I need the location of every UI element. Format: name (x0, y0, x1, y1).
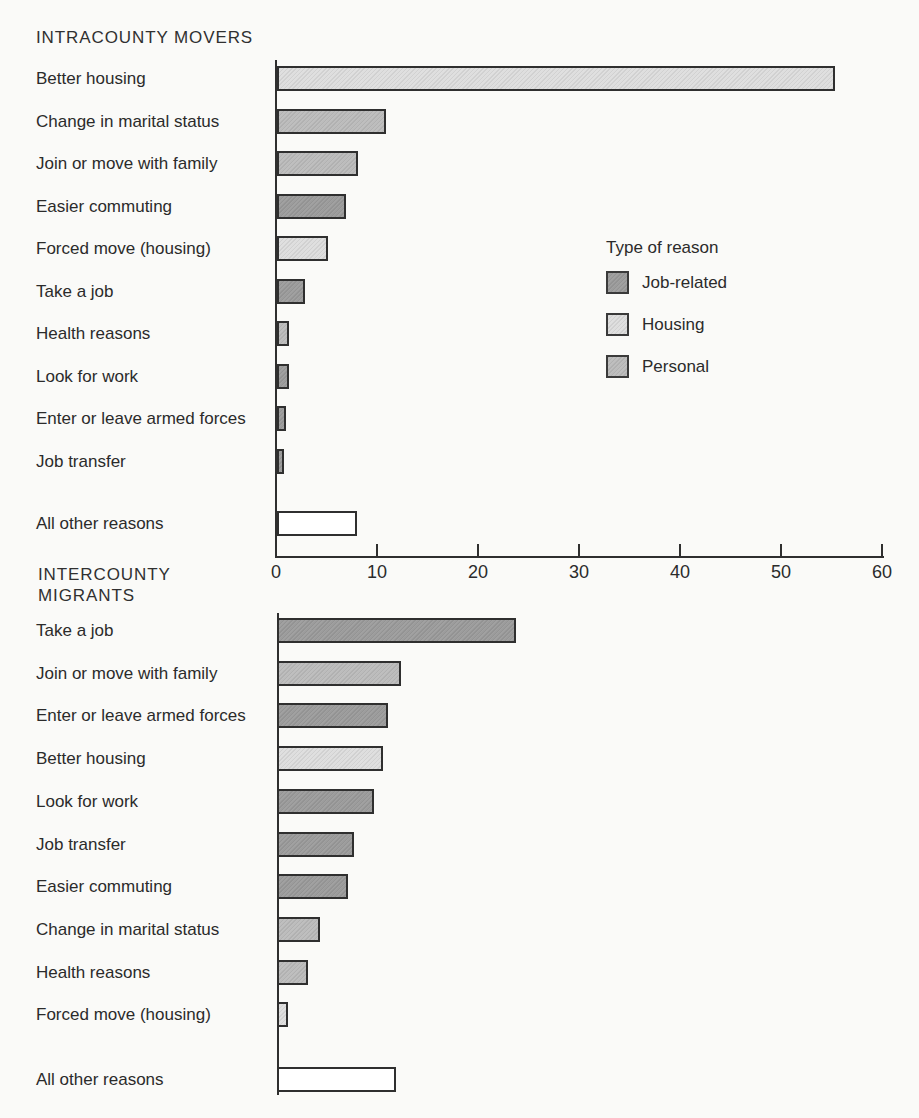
category-label: Easier commuting (36, 877, 172, 897)
category-label: Join or move with family (36, 154, 217, 174)
job-related-swatch (606, 271, 629, 294)
bar (277, 321, 289, 346)
legend-title: Type of reason (606, 238, 727, 258)
legend-item: Job-related (606, 271, 727, 294)
axis-tick-label: 60 (864, 562, 900, 583)
bar (277, 406, 286, 431)
bar (277, 1067, 396, 1092)
bar (277, 66, 835, 91)
axis-tick (578, 544, 580, 558)
category-label: Look for work (36, 792, 138, 812)
bar (277, 449, 284, 474)
axis-tick-label: 50 (763, 562, 799, 583)
category-label: All other reasons (36, 514, 164, 534)
bar (277, 194, 346, 219)
bar (277, 109, 386, 134)
category-label: Change in marital status (36, 112, 219, 132)
category-label: Enter or leave armed forces (36, 706, 246, 726)
bar (277, 960, 308, 985)
category-label: Join or move with family (36, 664, 217, 684)
category-label: Better housing (36, 749, 146, 769)
category-label: Better housing (36, 69, 146, 89)
axis-tick (881, 544, 883, 558)
axis-tick (477, 544, 479, 558)
axis-tick (679, 544, 681, 558)
bar (277, 917, 320, 942)
legend-items: Job-relatedHousingPersonal (606, 271, 727, 378)
axis-tick-label: 10 (359, 562, 395, 583)
bar (277, 874, 348, 899)
axis-tick-label: 20 (460, 562, 496, 583)
bar (277, 703, 388, 728)
legend-item: Personal (606, 355, 727, 378)
intercounty-migrants-title: INTERCOUNTY MIGRANTS (38, 564, 171, 606)
bar (277, 789, 374, 814)
category-label: Take a job (36, 621, 114, 641)
category-label: Easier commuting (36, 197, 172, 217)
bar (277, 511, 357, 536)
intracounty-baseline (275, 60, 277, 558)
housing-swatch (606, 313, 629, 336)
bar (277, 151, 358, 176)
category-label: Health reasons (36, 324, 150, 344)
bar (277, 236, 328, 261)
category-label: Change in marital status (36, 920, 219, 940)
category-label: Job transfer (36, 835, 126, 855)
bar (277, 1002, 288, 1027)
reasons-for-moving-chart: INTRACOUNTY MOVERS INTERCOUNTY MIGRANTS … (0, 0, 919, 1118)
axis-tick-label: 0 (258, 562, 294, 583)
personal-swatch (606, 355, 629, 378)
bar (277, 618, 516, 643)
category-label: All other reasons (36, 1070, 164, 1090)
axis-tick-label: 30 (561, 562, 597, 583)
category-label: Forced move (housing) (36, 239, 211, 259)
x-axis-line (276, 556, 884, 558)
category-label: Enter or leave armed forces (36, 409, 246, 429)
legend-item: Housing (606, 313, 727, 336)
bar (277, 661, 401, 686)
bar (277, 746, 383, 771)
axis-tick (780, 544, 782, 558)
category-label: Job transfer (36, 452, 126, 472)
bar (277, 364, 289, 389)
legend-item-label: Housing (642, 315, 704, 335)
category-label: Look for work (36, 367, 138, 387)
axis-tick (376, 544, 378, 558)
category-label: Health reasons (36, 963, 150, 983)
intracounty-movers-title: INTRACOUNTY MOVERS (36, 27, 253, 48)
axis-tick (275, 544, 277, 558)
legend: Type of reason Job-relatedHousingPersona… (606, 238, 727, 397)
axis-tick-label: 40 (662, 562, 698, 583)
legend-item-label: Personal (642, 357, 709, 377)
bar (277, 279, 305, 304)
legend-item-label: Job-related (642, 273, 727, 293)
bar (277, 832, 354, 857)
category-label: Forced move (housing) (36, 1005, 211, 1025)
category-label: Take a job (36, 282, 114, 302)
